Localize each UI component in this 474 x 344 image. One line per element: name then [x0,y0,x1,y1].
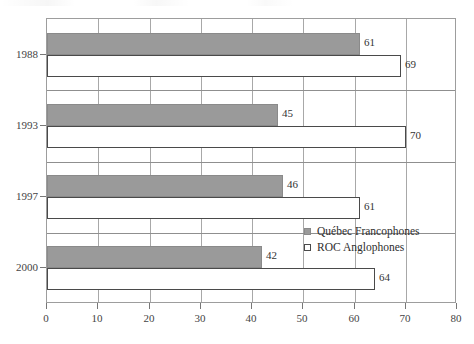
bar-value-label-2000-roc-anglophones: 64 [379,272,390,283]
x-tick-label-50: 50 [297,312,308,324]
y-tick-label-1993: 1993 [8,119,38,131]
bar-value-label-1997-quebec-francophones: 46 [287,179,298,190]
y-tick-1988 [40,54,46,55]
legend-label-roc-anglophones: ROC Anglophones [317,240,404,254]
legend-swatch-filled-icon [304,228,311,235]
bar-chart: 0102030405060708061691988457019934661199… [0,0,474,344]
x-tick-10 [97,303,98,309]
bar-value-label-1988-quebec-francophones: 61 [364,37,375,48]
legend-swatch-hollow-icon [304,244,311,251]
x-tick-label-10: 10 [92,312,103,324]
bar-1997-roc-anglophones [47,197,360,219]
bar-1993-roc-anglophones [47,126,406,148]
bar-2000-roc-anglophones [47,268,375,290]
bar-2000-quebec-francophones [47,246,262,268]
bar-1997-quebec-francophones [47,175,283,197]
bar-value-label-1993-roc-anglophones: 70 [410,130,421,141]
bar-value-label-1988-roc-anglophones: 69 [405,59,416,70]
legend-item-quebec-francophones: Québec Francophones [304,224,420,238]
x-tick-20 [149,303,150,309]
y-tick-label-1988: 1988 [8,48,38,60]
legend-item-roc-anglophones: ROC Anglophones [304,240,420,254]
bar-value-label-1993-quebec-francophones: 45 [282,108,293,119]
y-tick-1997 [40,196,46,197]
x-tick-40 [251,303,252,309]
y-tick-label-2000: 2000 [8,261,38,273]
x-tick-70 [405,303,406,309]
plot-area [46,18,456,303]
x-tick-label-40: 40 [246,312,257,324]
x-tick-30 [200,303,201,309]
bar-1988-roc-anglophones [47,55,401,77]
group-separator-1997 [47,162,455,163]
group-separator-1993 [47,90,455,91]
x-tick-80 [456,303,457,309]
bar-1988-quebec-francophones [47,33,360,55]
scan-artifact [0,0,474,6]
x-tick-50 [302,303,303,309]
y-tick-label-1997: 1997 [8,190,38,202]
x-tick-label-60: 60 [349,312,360,324]
x-tick-label-80: 80 [451,312,462,324]
x-tick-label-70: 70 [400,312,411,324]
x-tick-label-20: 20 [144,312,155,324]
x-tick-label-0: 0 [43,312,49,324]
y-tick-1993 [40,125,46,126]
x-tick-60 [354,303,355,309]
bar-value-label-2000-quebec-francophones: 42 [266,250,277,261]
y-tick-2000 [40,267,46,268]
chart-legend: Québec Francophones ROC Anglophones [304,224,420,256]
bar-1993-quebec-francophones [47,104,278,126]
legend-label-quebec-francophones: Québec Francophones [317,224,420,238]
x-tick-label-30: 30 [195,312,206,324]
bar-value-label-1997-roc-anglophones: 61 [364,201,375,212]
x-tick-0 [46,303,47,309]
